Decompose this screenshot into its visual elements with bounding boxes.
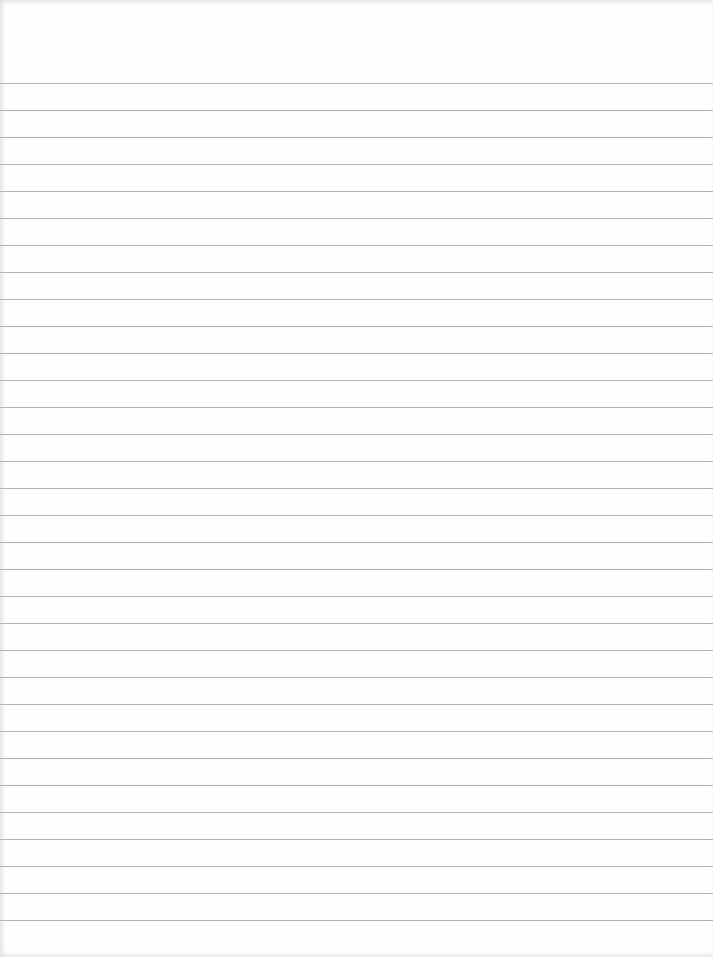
ruled-line — [0, 461, 713, 462]
ruled-line — [0, 650, 713, 651]
ruled-line — [0, 785, 713, 786]
ruled-line — [0, 164, 713, 165]
ruled-line — [0, 731, 713, 732]
ruled-line — [0, 515, 713, 516]
ruled-line — [0, 272, 713, 273]
ruled-line — [0, 353, 713, 354]
ruled-line — [0, 83, 713, 84]
ruled-line — [0, 623, 713, 624]
ruled-line — [0, 569, 713, 570]
ruled-line — [0, 380, 713, 381]
ruled-line — [0, 218, 713, 219]
ruled-line — [0, 812, 713, 813]
lined-paper-sheet — [0, 0, 713, 957]
ruled-line — [0, 920, 713, 921]
ruled-line — [0, 839, 713, 840]
ruled-line — [0, 893, 713, 894]
ruled-line — [0, 542, 713, 543]
ruled-line — [0, 677, 713, 678]
ruled-line — [0, 137, 713, 138]
ruled-line — [0, 704, 713, 705]
ruled-line — [0, 866, 713, 867]
ruled-line — [0, 434, 713, 435]
ruled-line — [0, 299, 713, 300]
ruled-line — [0, 326, 713, 327]
ruled-line — [0, 110, 713, 111]
ruled-line — [0, 245, 713, 246]
ruled-line — [0, 596, 713, 597]
ruled-line — [0, 488, 713, 489]
ruled-line — [0, 758, 713, 759]
ruled-line — [0, 191, 713, 192]
ruled-line — [0, 407, 713, 408]
